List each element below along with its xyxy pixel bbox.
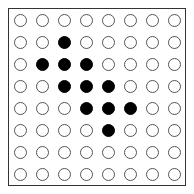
empty-circle[interactable] — [58, 146, 71, 159]
empty-circle[interactable] — [58, 14, 71, 27]
empty-circle[interactable] — [168, 168, 181, 181]
empty-circle[interactable] — [80, 168, 93, 181]
empty-circle[interactable] — [36, 146, 49, 159]
game-board — [8, 8, 186, 186]
empty-circle[interactable] — [146, 168, 159, 181]
empty-circle[interactable] — [124, 80, 137, 93]
empty-circle[interactable] — [102, 36, 115, 49]
empty-circle[interactable] — [124, 168, 137, 181]
filled-circle[interactable] — [58, 36, 71, 49]
empty-circle[interactable] — [168, 146, 181, 159]
empty-circle[interactable] — [168, 58, 181, 71]
empty-circle[interactable] — [168, 102, 181, 115]
empty-circle[interactable] — [80, 14, 93, 27]
empty-circle[interactable] — [168, 14, 181, 27]
filled-circle[interactable] — [124, 102, 137, 115]
empty-circle[interactable] — [36, 14, 49, 27]
filled-circle[interactable] — [58, 80, 71, 93]
filled-circle[interactable] — [58, 58, 71, 71]
filled-circle[interactable] — [80, 58, 93, 71]
empty-circle[interactable] — [124, 14, 137, 27]
filled-circle[interactable] — [102, 124, 115, 137]
filled-circle[interactable] — [80, 80, 93, 93]
empty-circle[interactable] — [80, 124, 93, 137]
empty-circle[interactable] — [124, 124, 137, 137]
filled-circle[interactable] — [102, 80, 115, 93]
empty-circle[interactable] — [146, 58, 159, 71]
empty-circle[interactable] — [146, 80, 159, 93]
empty-circle[interactable] — [14, 80, 27, 93]
empty-circle[interactable] — [14, 58, 27, 71]
empty-circle[interactable] — [102, 168, 115, 181]
empty-circle[interactable] — [124, 36, 137, 49]
empty-circle[interactable] — [36, 124, 49, 137]
empty-circle[interactable] — [80, 36, 93, 49]
empty-circle[interactable] — [168, 80, 181, 93]
empty-circle[interactable] — [14, 124, 27, 137]
empty-circle[interactable] — [146, 146, 159, 159]
empty-circle[interactable] — [14, 102, 27, 115]
empty-circle[interactable] — [14, 146, 27, 159]
empty-circle[interactable] — [14, 36, 27, 49]
filled-circle[interactable] — [102, 102, 115, 115]
filled-circle[interactable] — [80, 102, 93, 115]
empty-circle[interactable] — [36, 102, 49, 115]
empty-circle[interactable] — [146, 102, 159, 115]
empty-circle[interactable] — [36, 168, 49, 181]
empty-circle[interactable] — [58, 102, 71, 115]
empty-circle[interactable] — [124, 146, 137, 159]
filled-circle[interactable] — [36, 58, 49, 71]
empty-circle[interactable] — [14, 14, 27, 27]
empty-circle[interactable] — [146, 124, 159, 137]
empty-circle[interactable] — [102, 14, 115, 27]
empty-circle[interactable] — [124, 58, 137, 71]
empty-circle[interactable] — [58, 124, 71, 137]
empty-circle[interactable] — [36, 80, 49, 93]
empty-circle[interactable] — [58, 168, 71, 181]
empty-circle[interactable] — [168, 124, 181, 137]
empty-circle[interactable] — [168, 36, 181, 49]
empty-circle[interactable] — [80, 146, 93, 159]
empty-circle[interactable] — [102, 146, 115, 159]
empty-circle[interactable] — [146, 36, 159, 49]
empty-circle[interactable] — [102, 58, 115, 71]
empty-circle[interactable] — [14, 168, 27, 181]
empty-circle[interactable] — [36, 36, 49, 49]
empty-circle[interactable] — [146, 14, 159, 27]
